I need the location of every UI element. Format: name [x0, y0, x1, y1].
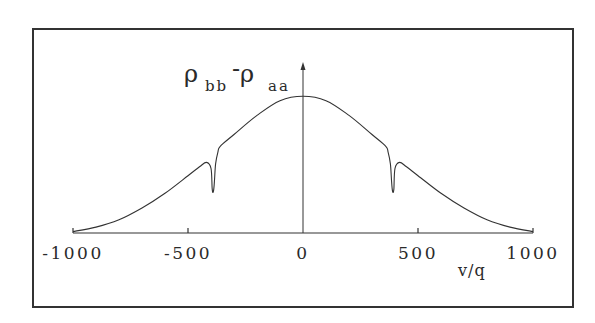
x-tick-label: -1000 [42, 243, 104, 263]
x-tick-label: -500 [164, 243, 212, 263]
x-tick-label: 500 [398, 243, 438, 263]
y-axis-label: ρ bb - ρ aa [184, 55, 290, 95]
ylabel-sub-2: aa [268, 77, 290, 95]
ylabel-minus: - [232, 55, 240, 83]
y-axis-arrow-icon [301, 62, 306, 70]
ylabel-sub-1: bb [205, 77, 228, 95]
x-axis-label: v/q [457, 261, 486, 280]
x-tick-label: 0 [296, 243, 309, 263]
chart-figure: -1000-50005001000 ρ bb - ρ aa v/q [0, 0, 595, 323]
x-tick-label: 1000 [506, 243, 559, 263]
ylabel-rho-1: ρ [184, 60, 198, 88]
ylabel-rho-2: ρ [240, 60, 254, 88]
